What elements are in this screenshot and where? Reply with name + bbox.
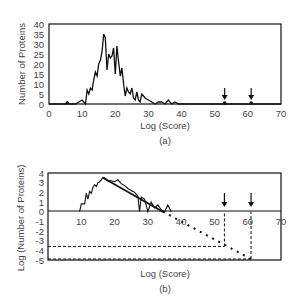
x-tick-label: 40: [176, 108, 187, 119]
y-tick-label: 25: [33, 49, 44, 60]
panel-a-x-axis-label: Log (Score): [140, 120, 190, 131]
x-tick-label: 60: [243, 108, 254, 119]
y-tick-label: 15: [33, 69, 44, 80]
panel-b-chart: 43210-1-2-3-4-5 10203040506070 Log (Numb…: [15, 165, 286, 294]
panel-b-y-axis-label: Log (Number of Proteins): [15, 165, 26, 272]
data-marker: [65, 101, 69, 105]
y-tick-label: 20: [33, 59, 44, 70]
data-marker: [249, 101, 253, 105]
panel-a-y-axis-label: Number of Proteins: [16, 23, 27, 105]
down-arrow-icon: [221, 193, 227, 207]
x-tick-label: 50: [209, 108, 220, 119]
panel-a-x-tick-labels: 010203040506070: [46, 108, 286, 119]
down-arrow-icon: [248, 193, 254, 207]
down-arrow-icon: [248, 88, 254, 100]
panel-a-plot-frame: [49, 24, 281, 104]
x-tick-label: 50: [209, 216, 220, 227]
x-tick-label: 30: [143, 108, 154, 119]
y-tick-label: 30: [33, 39, 44, 50]
y-tick-label: 35: [33, 29, 44, 40]
panel-a-panel-label: (a): [159, 135, 171, 146]
panel-a-y-tick-labels: 0510152025303540: [33, 19, 44, 110]
x-tick-label: 10: [76, 216, 87, 227]
y-tick-label: 40: [33, 19, 44, 30]
panel-b-panel-label: (b): [159, 283, 171, 294]
x-tick-label: 20: [109, 216, 120, 227]
x-tick-label: 40: [176, 216, 187, 227]
panel-b-y-tick-labels: 43210-1-2-3-4-5: [36, 168, 44, 266]
y-tick-label: -5: [36, 255, 44, 266]
y-tick-label: 10: [33, 79, 44, 90]
x-tick-label: 70: [276, 108, 287, 119]
x-tick-label: 0: [46, 108, 51, 119]
panel-b-x-tick-labels: 10203040506070: [76, 216, 286, 227]
y-tick-label: 5: [39, 89, 44, 100]
panel-b-x-axis-label: Log (Score): [140, 268, 190, 279]
y-tick-label: 0: [39, 99, 44, 110]
x-tick-label: 30: [143, 216, 154, 227]
panel-b-linear-fit-line: [103, 178, 163, 212]
x-tick-label: 70: [276, 216, 287, 227]
panel-a-histogram-line: [49, 34, 281, 104]
x-tick-label: 20: [110, 108, 121, 119]
panel-b-arrow-icons: [221, 193, 254, 207]
panel-a-chart: 0510152025303540 010203040506070 Number …: [16, 19, 286, 147]
panel-b-extrapolation-dotted-line: [163, 212, 251, 259]
panel-b-log-histogram-line: [80, 177, 172, 211]
data-marker: [223, 101, 227, 105]
down-arrow-icon: [222, 88, 228, 100]
figure: 0510152025303540 010203040506070 Number …: [0, 0, 298, 303]
panel-a-arrow-icons: [222, 88, 255, 100]
x-tick-label: 10: [77, 108, 88, 119]
